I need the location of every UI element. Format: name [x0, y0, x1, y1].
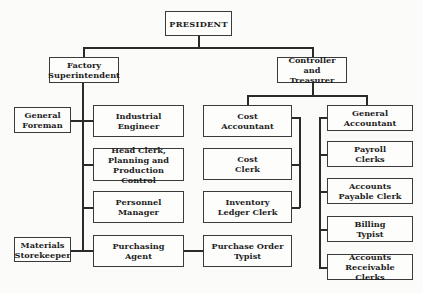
- node-head-clerk: Head Clerk, Planning and Production Cont…: [93, 148, 184, 181]
- node-inventory-ledger-clerk: Inventory Ledger Clerk: [203, 191, 292, 223]
- connector-to-general-accountant: [366, 95, 368, 105]
- node-general-foreman: General Foreman: [14, 107, 71, 133]
- connector-gen-bracket: [319, 117, 321, 268]
- connector-inventory-clerk: [292, 207, 300, 209]
- connector-cost-bracket: [299, 117, 301, 208]
- node-personnel-manager: Personnel Manager: [93, 191, 184, 223]
- node-purchasing-agent: Purchasing Agent: [93, 235, 184, 267]
- connector-head-clerk: [82, 164, 93, 166]
- connector-payroll: [319, 154, 327, 156]
- connector-top-bar: [83, 47, 313, 49]
- node-president: PRESIDENT: [165, 11, 232, 36]
- node-purchase-order-typist: Purchase Order Typist: [203, 235, 292, 267]
- node-industrial-engineer: Industrial Engineer: [93, 105, 184, 137]
- connector-to-cost-accountant: [247, 95, 249, 105]
- connector-personnel: [82, 207, 93, 209]
- node-cost-accountant: Cost Accountant: [203, 105, 292, 137]
- node-materials-storekeeper: Materials Storekeeper: [14, 237, 71, 262]
- connector-factory-trunk: [82, 83, 84, 251]
- node-accounts-receivable-clerks: Accounts Receivable Clerks: [327, 254, 413, 280]
- connector-receivable: [319, 267, 327, 269]
- node-controller-treasurer: Controller and Treasurer: [277, 57, 347, 83]
- connector-controller-bar: [247, 95, 367, 97]
- node-billing-typist: Billing Typist: [327, 216, 413, 242]
- connector-to-factory: [83, 47, 85, 57]
- connector-billing: [319, 229, 327, 231]
- node-general-accountant: General Accountant: [327, 105, 413, 131]
- connector-payable: [319, 191, 327, 193]
- connector-purchasing-po-typist: [184, 250, 203, 252]
- node-accounts-payable-clerk: Accounts Payable Clerk: [327, 178, 413, 204]
- node-cost-clerk: Cost Clerk: [203, 148, 292, 180]
- org-chart: PRESIDENT Factory Superintendent Control…: [0, 0, 423, 293]
- connector-general-foreman: [71, 120, 93, 122]
- node-factory-superintendent: Factory Superintendent: [49, 57, 119, 83]
- connector-cost-clerk: [292, 164, 300, 166]
- connector-materials-purchasing: [71, 250, 93, 252]
- node-payroll-clerks: Payroll Clerks: [327, 141, 413, 167]
